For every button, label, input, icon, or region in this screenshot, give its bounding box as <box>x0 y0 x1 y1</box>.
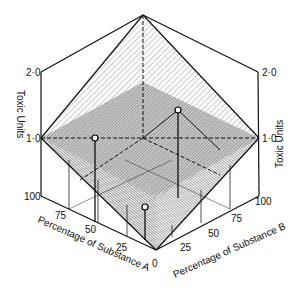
right-axis-title: Toxic Units <box>274 120 285 168</box>
point-left <box>92 135 98 141</box>
b-tick-25: 25 <box>180 242 192 253</box>
left-axis-title: Toxic Units <box>15 90 26 138</box>
b-tick-50: 50 <box>208 228 220 239</box>
a-tick-100: 100 <box>24 191 41 202</box>
point-front <box>142 204 148 210</box>
point-right <box>175 107 181 113</box>
right-tick-2: 2·0 <box>262 67 277 78</box>
b-tick-75: 75 <box>231 213 243 224</box>
a-tick-75: 75 <box>55 210 67 221</box>
b-tick-100: 100 <box>255 196 272 207</box>
toxicity-surface-diagram: 2·0 1·0 2·0 1·0 Toxic Units Toxic Units … <box>0 0 297 288</box>
left-tick-1: 1·0 <box>26 133 41 144</box>
left-tick-2: 2·0 <box>26 67 41 78</box>
origin-tick-0: 0 <box>152 258 158 269</box>
